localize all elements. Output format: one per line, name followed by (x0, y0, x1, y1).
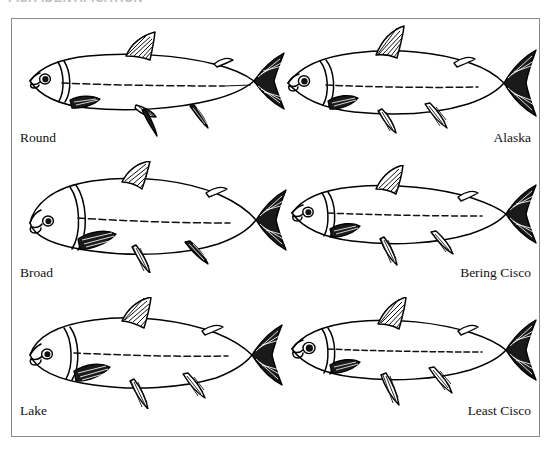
least-cisco-drawing (282, 297, 540, 407)
round-whitefish-drawing (18, 29, 290, 137)
alaska-whitefish-drawing (278, 25, 540, 137)
species-label-broad: Broad (20, 266, 53, 280)
fish-figure-least-cisco (282, 297, 540, 407)
plate-top-caption: FISH IDENTIFICATION (8, 0, 308, 5)
species-label-round: Round (20, 131, 56, 145)
species-label-alaska: Alaska (494, 131, 532, 145)
bering-cisco-drawing (282, 165, 540, 269)
broad-whitefish-drawing (18, 161, 290, 273)
species-label-bering-cisco: Bering Cisco (460, 266, 531, 280)
plate-frame: Round (11, 18, 540, 437)
illustration-plate-page: FISH IDENTIFICATION (0, 0, 551, 451)
fish-figure-alaska (278, 25, 540, 137)
fish-figure-bering-cisco (282, 165, 540, 269)
lake-whitefish-drawing (18, 297, 290, 409)
species-label-least-cisco: Least Cisco (468, 404, 531, 418)
fish-figure-round (18, 29, 290, 137)
species-label-lake: Lake (20, 404, 47, 418)
fish-figure-broad (18, 161, 290, 273)
fish-figure-lake (18, 297, 290, 409)
